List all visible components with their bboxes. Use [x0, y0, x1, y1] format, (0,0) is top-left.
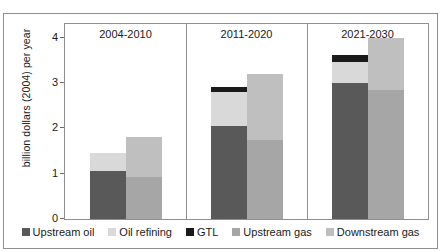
bar-segment-downstream-gas — [247, 74, 283, 140]
bar-2004-2010-gas — [126, 137, 162, 219]
bar-segment-downstream-gas — [126, 137, 162, 177]
bar-segment-downstream-gas — [368, 38, 404, 90]
bar-segment-upstream-oil — [332, 83, 368, 219]
y-axis-tick-label: 3 — [42, 77, 58, 88]
panel-title-2011-2020: 2011-2020 — [186, 28, 307, 40]
bar-segment-oil-refining — [211, 92, 247, 126]
bar-segment-upstream-gas — [247, 140, 283, 219]
y-axis-tick-label: 4 — [42, 32, 58, 43]
bar-segment-oil-refining — [90, 153, 126, 171]
y-axis-title: billion dollars (2004) per year — [20, 13, 32, 183]
bar-segment-upstream-gas — [126, 177, 162, 219]
legend-swatch-icon — [22, 228, 30, 236]
figure-container: billion dollars (2004) per year 01234 20… — [3, 13, 438, 249]
bar-2021-2030-gas — [368, 38, 404, 219]
bar-2004-2010-oil — [90, 153, 126, 219]
legend-item-gtl[interactable]: GTL — [186, 226, 218, 238]
bar-2021-2030-oil — [332, 55, 368, 219]
y-axis-tick-label: 0 — [42, 213, 58, 224]
bar-segment-upstream-gas — [368, 90, 404, 219]
legend-label: GTL — [197, 226, 218, 238]
legend-swatch-icon — [232, 228, 240, 236]
legend-label: Upstream gas — [243, 226, 311, 238]
legend-swatch-icon — [326, 228, 334, 236]
clipped-caption-strip — [0, 0, 441, 10]
plot-area: 2004-20102011-20202021-2030 — [64, 23, 429, 220]
panel-divider — [186, 24, 187, 219]
legend-label: Upstream oil — [33, 226, 95, 238]
bar-segment-oil-refining — [332, 62, 368, 83]
chart-legend: Upstream oilOil refiningGTLUpstream gasD… — [4, 226, 437, 238]
legend-label: Oil refining — [119, 226, 172, 238]
bar-2011-2020-gas — [247, 74, 283, 219]
y-axis-tick-label: 2 — [42, 122, 58, 133]
legend-swatch-icon — [186, 228, 194, 236]
legend-item-upstream-oil[interactable]: Upstream oil — [22, 226, 95, 238]
y-axis-tick-label: 1 — [42, 168, 58, 179]
bar-segment-upstream-oil — [211, 126, 247, 219]
legend-swatch-icon — [108, 228, 116, 236]
panel-title-2004-2010: 2004-2010 — [65, 28, 186, 40]
legend-item-downstream-gas[interactable]: Downstream gas — [326, 226, 420, 238]
legend-item-upstream-gas[interactable]: Upstream gas — [232, 226, 311, 238]
bar-segment-upstream-oil — [90, 171, 126, 219]
bar-2011-2020-oil — [211, 87, 247, 219]
legend-item-oil-refining[interactable]: Oil refining — [108, 226, 172, 238]
legend-label: Downstream gas — [337, 226, 420, 238]
panel-divider — [307, 24, 308, 219]
